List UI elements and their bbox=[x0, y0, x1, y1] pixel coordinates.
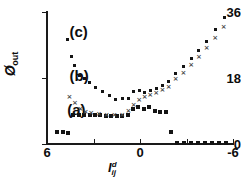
data-point bbox=[147, 105, 151, 109]
x-axis-tick bbox=[47, 139, 48, 144]
data-point bbox=[167, 80, 170, 83]
data-point bbox=[155, 87, 158, 90]
data-point bbox=[210, 141, 214, 145]
data-point bbox=[164, 110, 168, 114]
data-point bbox=[132, 90, 135, 93]
data-point bbox=[224, 141, 228, 145]
data-point bbox=[182, 141, 186, 145]
data-point bbox=[70, 55, 73, 58]
x-axis-tick bbox=[94, 139, 95, 144]
data-point: × bbox=[103, 112, 110, 119]
y-axis-tick-label: 36 bbox=[201, 6, 241, 19]
data-point bbox=[143, 91, 146, 94]
data-point: × bbox=[165, 84, 172, 91]
data-point: × bbox=[88, 110, 95, 117]
data-point bbox=[121, 97, 124, 100]
data-point bbox=[182, 65, 185, 68]
x-axis-subscript: ij bbox=[112, 168, 116, 177]
data-point bbox=[214, 28, 217, 31]
x-axis-tick bbox=[233, 139, 234, 144]
data-point bbox=[101, 90, 104, 93]
data-point bbox=[142, 107, 146, 111]
data-point bbox=[94, 86, 97, 89]
data-point: × bbox=[212, 35, 219, 42]
data-point bbox=[61, 130, 65, 134]
data-point bbox=[108, 94, 111, 97]
data-point bbox=[217, 141, 221, 145]
data-point bbox=[71, 113, 75, 117]
series-label-c: (c) bbox=[69, 24, 87, 39]
data-point bbox=[197, 49, 200, 52]
data-point bbox=[169, 130, 173, 134]
data-point: × bbox=[172, 76, 179, 83]
chart-figure: Øout Idij 0183660-6 (c)(b)(a) ××××××××××… bbox=[0, 0, 241, 196]
data-point bbox=[83, 77, 86, 80]
data-point bbox=[78, 74, 81, 77]
x-axis-tick-label: -6 bbox=[218, 146, 241, 159]
data-point bbox=[161, 84, 164, 87]
data-point bbox=[175, 141, 179, 145]
data-point bbox=[174, 72, 177, 75]
data-point bbox=[158, 110, 162, 114]
x-axis-tick-label: 6 bbox=[32, 146, 62, 159]
data-point bbox=[203, 141, 207, 145]
data-point bbox=[114, 98, 117, 101]
data-point bbox=[127, 97, 130, 100]
data-point bbox=[190, 57, 193, 60]
data-point: × bbox=[95, 111, 102, 118]
data-point: × bbox=[111, 112, 118, 119]
data-point: × bbox=[203, 45, 210, 52]
data-point bbox=[205, 40, 208, 43]
y-axis-tick-label: 18 bbox=[201, 72, 241, 85]
data-point: × bbox=[195, 54, 202, 61]
x-axis-tick-label: 0 bbox=[125, 146, 155, 159]
x-axis-tick bbox=[140, 139, 141, 144]
data-point bbox=[77, 113, 81, 117]
data-point: × bbox=[220, 24, 227, 31]
data-point bbox=[66, 38, 69, 41]
data-point: × bbox=[188, 62, 195, 69]
data-point bbox=[73, 64, 76, 67]
data-point: × bbox=[180, 70, 187, 77]
data-point bbox=[189, 141, 193, 145]
y-axis-subscript: out bbox=[10, 52, 20, 66]
y-axis-symbol: Ø bbox=[2, 66, 18, 77]
y-axis-tick bbox=[42, 12, 47, 13]
x-axis-tick bbox=[187, 139, 188, 144]
data-point bbox=[196, 141, 200, 145]
data-point bbox=[223, 16, 226, 19]
data-point bbox=[138, 89, 141, 92]
data-point bbox=[55, 130, 59, 134]
data-point bbox=[149, 89, 152, 92]
data-point bbox=[153, 109, 157, 113]
y-axis-tick bbox=[42, 78, 47, 79]
data-point bbox=[88, 81, 91, 84]
y-axis-title: Øout bbox=[2, 52, 18, 77]
data-point bbox=[66, 131, 70, 135]
x-axis-title: Idij bbox=[108, 161, 121, 174]
